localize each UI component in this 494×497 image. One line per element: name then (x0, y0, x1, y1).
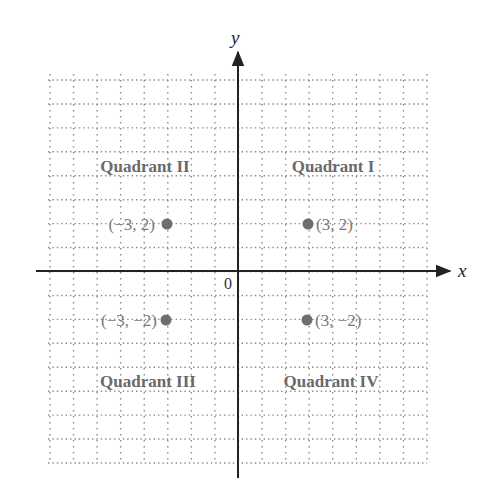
point-marker (303, 219, 314, 230)
axes: x y 0 (36, 27, 467, 478)
coordinate-plane: x y 0 Quadrant I Quadrant II Quadrant II… (0, 0, 494, 497)
quadrant-3-label: Quadrant III (100, 372, 196, 391)
y-axis-label: y (229, 27, 240, 48)
quadrant-2-label: Quadrant II (100, 157, 190, 176)
quadrant-labels: Quadrant I Quadrant II Quadrant III Quad… (100, 157, 379, 391)
point-marker (302, 315, 313, 326)
point-label: (3, 2) (316, 215, 353, 234)
plotted-points: (−3, 2) (3, 2) (−3, −2) (3, −2) (101, 215, 361, 330)
point-label: (3, −2) (315, 311, 361, 330)
point-label: (−3, −2) (101, 311, 157, 330)
x-axis-label: x (457, 260, 467, 281)
point-label: (−3, 2) (109, 215, 155, 234)
origin-label: 0 (224, 275, 232, 292)
quadrant-4-label: Quadrant IV (284, 372, 380, 391)
quadrant-1-label: Quadrant I (292, 157, 375, 176)
point-marker (161, 315, 172, 326)
point-marker (162, 219, 173, 230)
